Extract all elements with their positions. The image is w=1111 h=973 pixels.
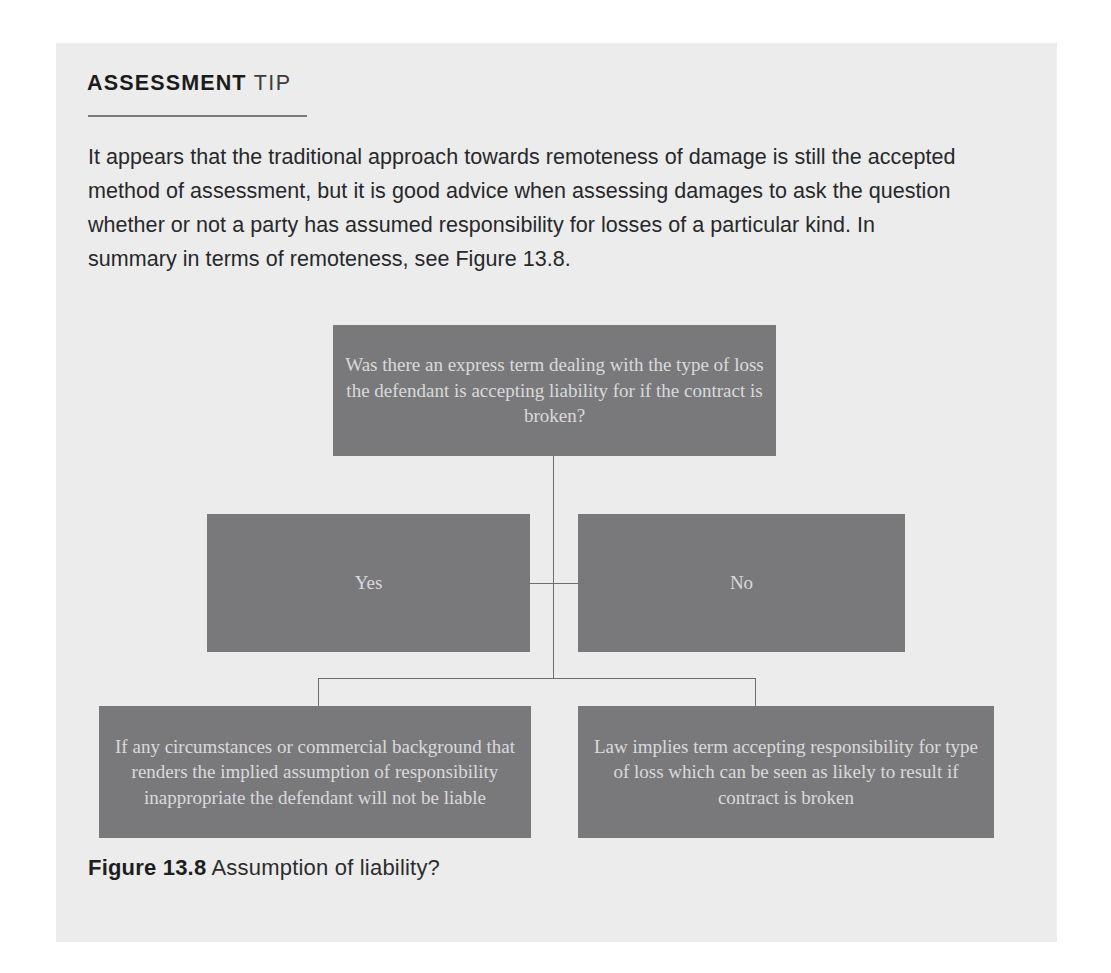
connector-bus-to-outcome-right [755, 678, 756, 706]
flowchart-node-no: No [578, 514, 905, 652]
figure-caption: Figure 13.8 Assumption of liability? [88, 855, 440, 881]
figure-caption-label: Figure 13.8 [88, 855, 206, 880]
flowchart-node-outcome-right: Law implies term accepting responsibilit… [578, 706, 994, 838]
figure-13-8-flowchart: Was there an express term dealing with t… [56, 43, 1057, 942]
connector-yes-to-no [530, 583, 578, 584]
connector-question-to-branches [553, 456, 554, 678]
connector-outcome-bus [318, 678, 756, 679]
flowchart-node-outcome-left: If any circumstances or commercial backg… [99, 706, 531, 838]
flowchart-node-yes: Yes [207, 514, 530, 652]
assessment-tip-card: ASSESSMENT TIP It appears that the tradi… [56, 43, 1057, 942]
figure-caption-text: Assumption of liability? [211, 855, 440, 880]
flowchart-node-question: Was there an express term dealing with t… [333, 325, 776, 456]
connector-bus-to-outcome-left [318, 678, 319, 706]
